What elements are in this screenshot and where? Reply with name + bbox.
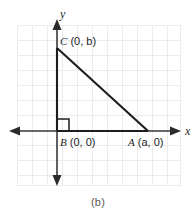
x-axis-label: x bbox=[184, 124, 191, 138]
vertex-label-a: A (a, 0) bbox=[127, 136, 163, 148]
grid-lines bbox=[17, 25, 181, 186]
coordinate-plane-figure: y x C (0, b) B (0, 0) A (a, 0) bbox=[0, 0, 196, 220]
right-triangle bbox=[57, 48, 148, 131]
vertex-label-b-coords: (0, 0) bbox=[67, 136, 96, 148]
vertex-label-c-coords: (0, b) bbox=[67, 35, 96, 47]
figure-caption: (b) bbox=[0, 196, 196, 208]
vertex-label-a-coords: (a, 0) bbox=[135, 136, 164, 148]
vertex-label-b: B (0, 0) bbox=[60, 136, 95, 148]
vertex-label-c: C (0, b) bbox=[60, 35, 96, 47]
y-axis-label: y bbox=[59, 7, 66, 21]
figure-container: y x C (0, b) B (0, 0) A (a, 0) (b) bbox=[0, 0, 196, 220]
triangle-hypotenuse-ca bbox=[57, 48, 148, 131]
